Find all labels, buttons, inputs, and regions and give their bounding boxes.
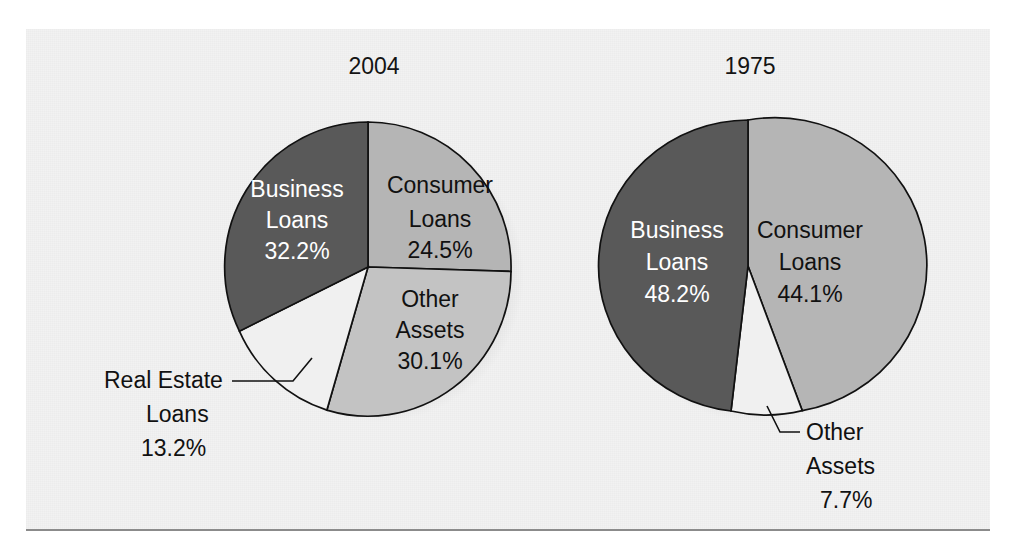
- chart-2004-label-business-loans-line1: Business: [250, 176, 343, 202]
- chart-1975-label-other-assets-line2: Assets: [806, 453, 875, 479]
- charts-svg-canvas: 2004 Consumer Loans 24.5% Other Assets 3…: [0, 0, 1011, 551]
- chart-1975-title: 1975: [724, 53, 775, 79]
- chart-2004-title: 2004: [348, 53, 399, 79]
- chart-2004-label-other-assets-line1: Other: [401, 286, 459, 312]
- chart-2004-label-consumer-loans-line1: Consumer: [387, 172, 493, 198]
- chart-1975-label-consumer-loans-line1: Consumer: [757, 217, 863, 243]
- chart-1975: 1975 Consumer Loans 44.1% Business Loans…: [599, 53, 927, 513]
- chart-2004-label-consumer-loans-line2: Loans: [409, 206, 472, 232]
- chart-1975-label-business-loans-line2: Loans: [646, 249, 709, 275]
- chart-1975-label-consumer-loans-line2: Loans: [779, 249, 842, 275]
- chart-2004-label-real-estate-loans-pct: 13.2%: [141, 435, 206, 461]
- chart-1975-label-business-loans-pct: 48.2%: [644, 281, 709, 307]
- chart-1975-label-business-loans-line1: Business: [630, 217, 723, 243]
- chart-2004-label-business-loans-line2: Loans: [266, 207, 329, 233]
- chart-1975-label-consumer-loans-pct: 44.1%: [777, 281, 842, 307]
- pie-chart-figure: 2004 Consumer Loans 24.5% Other Assets 3…: [0, 0, 1011, 551]
- chart-2004: 2004 Consumer Loans 24.5% Other Assets 3…: [104, 53, 524, 461]
- chart-1975-label-other-assets-line1: Other: [806, 419, 864, 445]
- chart-1975-label-other-assets-pct: 7.7%: [820, 487, 872, 513]
- chart-2004-label-real-estate-loans-line1: Real Estate: [104, 367, 223, 393]
- chart-2004-label-business-loans-pct: 32.2%: [264, 238, 329, 264]
- chart-2004-label-real-estate-loans-line2: Loans: [146, 401, 209, 427]
- chart-2004-label-other-assets-line2: Assets: [395, 317, 464, 343]
- chart-2004-label-consumer-loans-pct: 24.5%: [407, 237, 472, 263]
- chart-2004-label-other-assets-pct: 30.1%: [397, 348, 462, 374]
